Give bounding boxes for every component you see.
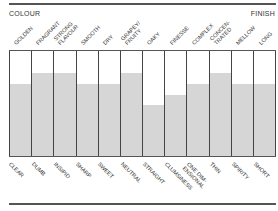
bottom-label-line: CLEAR [8,161,25,178]
chart-column [210,51,232,156]
chart-column [77,51,99,156]
top-label-line: SMOOTH [79,24,101,46]
top-label-line: FINESSE [168,25,189,46]
chart-column [10,51,32,156]
bottom-label-line: NEUTRAL [119,161,142,184]
bottom-label-line: SHORT [253,161,271,179]
bottom-label-line: SWEET [97,161,115,179]
bottom-label: SPIRITY [231,161,251,181]
bottom-label: STRAIGHT [142,161,166,185]
column-fill [232,84,253,156]
top-label: MELLOW [235,25,256,46]
top-label: FINESSE [168,25,189,46]
bottom-label: CLEAR [8,161,25,178]
finish-heading: FINISH [251,10,275,17]
column-fill [54,73,75,156]
bottom-label: THIN [208,161,221,174]
wine-profile-chart [9,50,276,157]
chart-column [232,51,254,156]
column-fill [187,84,208,156]
top-label: GRAPEY/FRUITY [120,20,146,46]
top-label-line: MELLOW [235,25,256,46]
column-fill [99,84,120,156]
chart-column [165,51,187,156]
column-fill [165,95,186,156]
bottom-label: SHARP [75,161,93,179]
top-label-line: GOLDEN [13,25,34,46]
top-label: DRY [102,33,115,46]
chart-column [99,51,121,156]
bottom-label: INSIPID [53,161,72,180]
bottom-label: NEUTRAL [119,161,142,184]
top-label: OAKY [146,31,161,46]
top-label-line: LONG [257,31,272,46]
bottom-label-line: INSIPID [53,161,72,180]
bottom-label-line: SHARP [75,161,93,179]
top-label-line: OAKY [146,31,161,46]
top-label: SMOOTH [79,24,101,46]
column-fill [10,84,31,156]
bottom-label-line: SPIRITY [231,161,251,181]
column-fill [143,105,164,156]
chart-column [187,51,209,156]
column-fill [77,84,98,156]
column-fill [121,73,142,156]
chart-column [32,51,54,156]
top-label: LONG [257,31,272,46]
top-rule [9,3,276,5]
chart-column [143,51,165,156]
bottom-label: SWEET [97,161,115,179]
chart-column [254,51,276,156]
top-label-line: DRY [102,33,115,46]
bottom-label-line: DUMB [30,161,46,177]
chart-column [121,51,143,156]
bottom-label-line: STRAIGHT [142,161,166,185]
column-fill [32,73,53,156]
top-label: CONCEN-TRATED [209,19,236,46]
bottom-rule [9,203,276,205]
top-label: GOLDEN [13,25,34,46]
chart-column [54,51,76,156]
bottom-label-line: THIN [208,161,221,174]
column-fill [254,84,275,156]
bottom-label: DUMB [30,161,46,177]
colour-heading: COLOUR [9,10,40,17]
column-fill [210,73,231,156]
bottom-label: SHORT [253,161,271,179]
